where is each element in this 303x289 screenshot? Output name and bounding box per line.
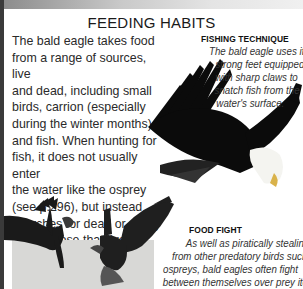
food-fight-caption-text: As well as piratically stealing food fro… (160, 237, 298, 289)
page-top-edge (0, 0, 303, 9)
caption-line: with sharp claws to (215, 71, 301, 84)
page-title: FEEDING HABITS (0, 14, 303, 31)
caption-line: ospreys, bald eagles often fight (162, 263, 298, 276)
caption-line: from other predatory birds such as (172, 250, 298, 263)
caption-line: water's surface. (216, 97, 301, 110)
body-line: The bald eagle takes food (12, 33, 162, 50)
fighting-eagles-photo (4, 196, 184, 289)
fishing-caption-text: The bald eagle uses its strong feet equi… (209, 45, 301, 110)
caption-line: As well as piratically stealing food (186, 237, 298, 250)
food-fight-caption-title: FOOD FIGHT (189, 224, 242, 235)
fishing-caption-title: FISHING TECHNIQUE (201, 33, 289, 44)
caption-line: snatch fish from the (215, 84, 301, 97)
caption-line: The bald eagle uses its (209, 45, 301, 58)
caption-line: strong feet equipped (215, 58, 301, 71)
caption-line: between themselves over prey items. (163, 276, 298, 289)
